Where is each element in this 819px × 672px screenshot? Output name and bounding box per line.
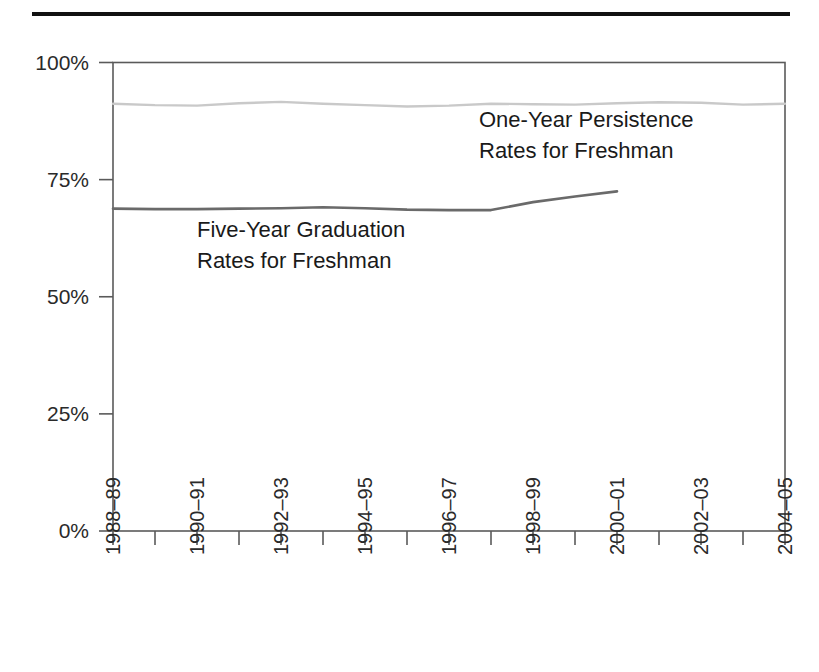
chart-plot-area: 0%25%50%75%100% 1988–891990–911992–93199… (0, 0, 819, 672)
x-tick-label: 1996–97 (438, 477, 460, 555)
annotation-persistence-line-2: Rates for Freshman (479, 138, 673, 163)
chart-svg: 0%25%50%75%100% 1988–891990–911992–93199… (0, 0, 819, 672)
x-tick-label: 2004–05 (774, 477, 796, 555)
y-tick-label: 25% (47, 402, 89, 425)
x-axis-tick-labels: 1988–891990–911992–931994–951996–971998–… (102, 477, 796, 555)
x-tick-label: 1994–95 (354, 477, 376, 555)
y-axis-ticks (99, 63, 113, 532)
y-axis-tick-labels: 0%25%50%75%100% (35, 51, 89, 543)
annotation-graduation-line-2: Rates for Freshman (197, 248, 391, 273)
x-tick-label: 2002–03 (690, 477, 712, 555)
annotation-persistence-line-1: One-Year Persistence (479, 107, 693, 132)
x-tick-label: 1990–91 (186, 477, 208, 555)
y-tick-label: 50% (47, 285, 89, 308)
y-tick-label: 0% (59, 519, 89, 542)
x-tick-label: 2000–01 (606, 477, 628, 555)
x-tick-label: 1988–89 (102, 477, 124, 555)
plot-frame (113, 63, 785, 532)
x-tick-label: 1992–93 (270, 477, 292, 555)
y-tick-label: 75% (47, 168, 89, 191)
annotation-graduation-line-1: Five-Year Graduation (197, 217, 405, 242)
y-tick-label: 100% (35, 51, 89, 74)
figure-container: 0%25%50%75%100% 1988–891990–911992–93199… (0, 0, 819, 672)
x-tick-label: 1998–99 (522, 477, 544, 555)
